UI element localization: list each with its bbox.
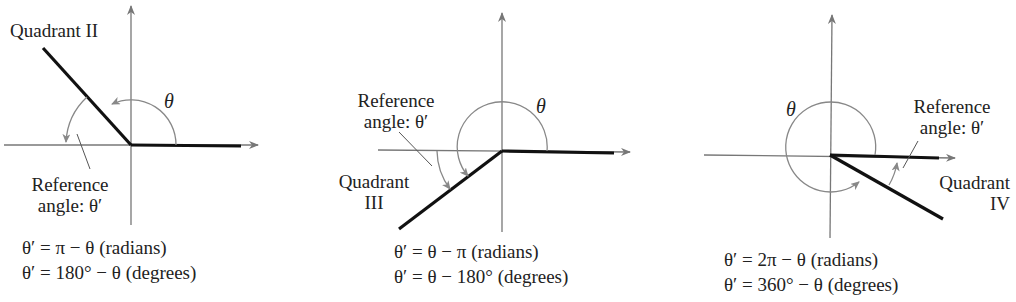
- reference-label-line2: angle: θ′: [20, 195, 120, 216]
- panel-quadrant-iii: Reference angle: θ′ θ Quadrant III θ′ = …: [320, 0, 660, 302]
- equation-degrees: θ′ = 360° − θ (degrees): [724, 273, 898, 296]
- quadrant-label: Quadrant II: [10, 20, 98, 41]
- reference-angle-label: Reference angle: θ′: [900, 96, 1004, 138]
- reference-angle-label: Reference angle: θ′: [346, 90, 446, 132]
- reference-label-line1: Reference: [900, 96, 1004, 117]
- reference-label-line1: Reference: [346, 90, 446, 111]
- quadrant-label-line2: IV: [916, 193, 1010, 214]
- reference-angle-label: Reference angle: θ′: [20, 174, 120, 216]
- panel-quadrant-iv: θ Reference angle: θ′ Quadrant IV θ′ = 2…: [690, 0, 1016, 302]
- reference-label-line1: Reference: [20, 174, 120, 195]
- quadrant-label: Quadrant III: [328, 171, 420, 213]
- theta-label: θ: [164, 90, 174, 113]
- reference-label-line2: angle: θ′: [900, 117, 1004, 138]
- theta-label: θ: [536, 95, 546, 118]
- quadrant-label: Quadrant IV: [916, 172, 1010, 214]
- equation-radians: θ′ = θ − π (radians): [394, 240, 539, 263]
- quadrant-label-line1: Quadrant: [328, 171, 420, 192]
- panel-quadrant-ii: Quadrant II θ Reference angle: θ′ θ′ = π…: [0, 0, 300, 302]
- equation-radians: θ′ = 2π − θ (radians): [724, 248, 878, 271]
- quadrant-label-line1: Quadrant: [916, 172, 1010, 193]
- equation-radians: θ′ = π − θ (radians): [22, 236, 167, 259]
- equation-degrees: θ′ = θ − 180° (degrees): [394, 265, 568, 288]
- equation-degrees: θ′ = 180° − θ (degrees): [22, 261, 196, 284]
- theta-label: θ: [786, 98, 796, 121]
- quadrant-label-line2: III: [328, 192, 420, 213]
- reference-label-line2: angle: θ′: [346, 111, 446, 132]
